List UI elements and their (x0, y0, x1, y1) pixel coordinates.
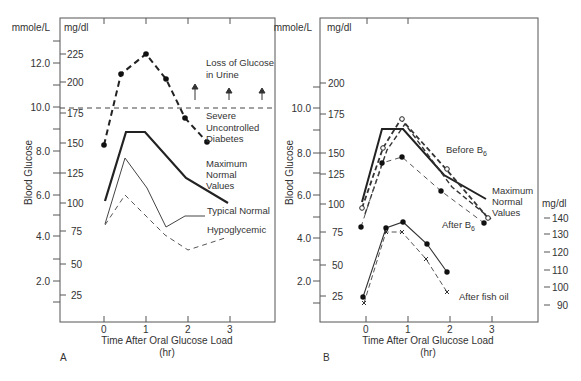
mgdl-tick-label: 100 (328, 199, 345, 210)
x-axis-title: Time After Oral Glucose Load (101, 335, 232, 346)
mgdl-tick-label: 100 (67, 198, 84, 209)
panel-b-x-ticks (366, 316, 492, 322)
mgdl-tick-label: 175 (328, 109, 345, 120)
series-maximum-normal (362, 129, 486, 202)
panel-a-top-ticks (104, 18, 230, 24)
annotation-maximum-normal: Normal (492, 196, 523, 207)
mgdl-tick-label: 150 (67, 138, 84, 149)
fish-oil-x-markers (362, 230, 449, 305)
panel-a-mmol-ticks (53, 41, 60, 302)
right-tick-label: 100 (552, 282, 569, 293)
fish-oil-points (360, 219, 449, 299)
mmol-tick-label: 12.0 (31, 58, 51, 69)
annotation-loss-of-glucose: in Urine (206, 69, 239, 80)
figure: 0 1 2 3 Time After Oral Glucose Load (hr… (0, 0, 581, 381)
annotation-after-fish-oil: After fish oil (459, 291, 509, 302)
panel-label-b: B (323, 352, 330, 363)
annotation-severe-diabetes: Uncontrolled (206, 122, 259, 133)
mgdl-tick-label: 75 (71, 226, 83, 237)
mgdl-tick-label: 25 (332, 291, 344, 302)
mmol-tick-label: 2.0 (297, 276, 311, 287)
mgdl-tick-label: 50 (71, 259, 83, 270)
x-axis-unit: (hr) (420, 347, 436, 358)
mgdl-tick-label: 225 (67, 49, 84, 60)
panel-b-mgdl-ticks (320, 83, 326, 296)
mgdl-unit: mg/dl (327, 22, 351, 33)
mmol-tick-label: 8.0 (36, 146, 50, 157)
mmol-tick-label: 6.0 (36, 190, 50, 201)
x-axis-unit: (hr) (159, 347, 175, 358)
series-severe-diabetes (104, 54, 207, 145)
arrow-up-icon (226, 88, 232, 93)
right-tick-label: 130 (552, 229, 569, 240)
right-tick-label: 120 (552, 247, 569, 258)
x-tick-label: 3 (489, 324, 495, 335)
mmol-tick-label: 10.0 (292, 103, 312, 114)
mmol-tick-label: 10.0 (31, 102, 51, 113)
mmol-unit: mmole/L (274, 22, 313, 33)
annotation-before-b6: Before B6 (446, 144, 487, 157)
x-tick-label: 0 (363, 324, 369, 335)
x-axis-title: Time After Oral Glucose Load (362, 335, 493, 346)
annotation-severe-diabetes: Diabetes (206, 133, 244, 144)
series-before-b6-outer (365, 124, 491, 219)
mgdl-tick-label: 25 (71, 290, 83, 301)
mgdl-tick-label: 150 (328, 148, 345, 159)
annotation-hypoglycemic: Hypoglycemic (207, 224, 266, 235)
x-tick-label: 0 (101, 324, 107, 335)
mgdl-tick-label: 200 (328, 78, 345, 89)
series-hypoglycemic (105, 195, 225, 250)
mgdl-tick-label: 125 (328, 169, 345, 180)
right-tick-label: 110 (552, 265, 568, 276)
mgdl-unit: mg/dl (64, 22, 88, 33)
mmol-tick-label: 4.0 (297, 233, 311, 244)
glucose-loss-arrows (192, 84, 265, 100)
panel-b-frame (320, 18, 538, 322)
mmol-unit: mmole/L (12, 22, 51, 33)
mgdl-tick-label: 50 (332, 260, 344, 271)
x-tick-label: 1 (405, 324, 411, 335)
panel-b: 0 1 2 3 Time After Oral Glucose Load (hr… (274, 18, 569, 363)
annotation-loss-of-glucose: Loss of Glucose (206, 57, 274, 68)
panel-b-mmol-ticks (313, 87, 320, 303)
panel-a: 0 1 2 3 Time After Oral Glucose Load (hr… (12, 18, 275, 363)
right-axis-unit: mg/dl (542, 198, 566, 209)
mgdl-tick-label: 200 (67, 77, 84, 88)
annotation-maximum-normal: Normal (206, 169, 237, 180)
arrow-up-icon (192, 84, 198, 89)
panel-label-a: A (60, 352, 67, 363)
right-tick-label: 140 (552, 213, 569, 224)
mmol-tick-label: 8.0 (297, 148, 311, 159)
mmol-tick-label: 6.0 (297, 190, 311, 201)
mgdl-tick-label: 175 (67, 108, 84, 119)
panel-b-right-ticks (544, 218, 550, 305)
annotation-severe-diabetes: Severe (206, 110, 236, 121)
annotation-maximum-normal: Values (492, 207, 521, 218)
annotation-maximum-normal: Maximum (492, 185, 533, 196)
series-after-fish-oil-dashed (364, 232, 447, 303)
x-tick-label: 2 (447, 324, 453, 335)
arrow-up-icon (259, 88, 265, 93)
y-axis-title: Blood Glucose (284, 140, 295, 205)
mmol-tick-label: 2.0 (36, 276, 50, 287)
mgdl-tick-label: 125 (67, 168, 84, 179)
x-tick-label: 2 (185, 324, 191, 335)
annotation-maximum-normal: Values (206, 180, 235, 191)
annotation-typical-normal: Typical Normal (207, 205, 270, 216)
panel-a-mgdl-ticks (60, 54, 66, 295)
panel-a-x-ticks (104, 316, 230, 322)
mgdl-tick-label: 75 (332, 227, 344, 238)
series-typical-normal (105, 158, 205, 227)
panel-b-top-ticks (367, 18, 408, 24)
y-axis-title: Blood Glucose (23, 140, 34, 205)
annotation-after-b6: After B6 (442, 219, 475, 232)
series-after-fish-oil-solid (363, 222, 447, 297)
before-b6-points (360, 117, 491, 221)
x-tick-label: 3 (227, 324, 233, 335)
mmol-tick-label: 4.0 (36, 231, 50, 242)
x-tick-label: 1 (143, 324, 149, 335)
right-tick-label: 90 (557, 300, 569, 311)
annotation-maximum-normal: Maximum (206, 158, 247, 169)
